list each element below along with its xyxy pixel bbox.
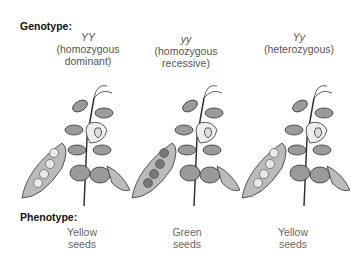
pea-plant-illustration-2	[122, 78, 240, 208]
genotype-description: recessive)	[131, 57, 241, 69]
genotype-description: (heterozygous)	[244, 43, 351, 55]
pea-plant-illustration-1	[12, 78, 130, 208]
genotype-description: (homozygous	[33, 43, 143, 55]
phenotype-label: seeds	[253, 238, 333, 250]
genotype-column-2: yy (homozygous recessive)	[131, 33, 241, 69]
phenotype-label: Yellow	[42, 226, 122, 238]
genotype-column-1: YY (homozygous dominant)	[33, 31, 143, 67]
phenotype-column-2: Green seeds	[147, 226, 227, 250]
phenotype-heading: Phenotype:	[20, 211, 77, 223]
phenotype-column-3: Yellow seeds	[253, 226, 333, 250]
phenotype-label: seeds	[42, 238, 122, 250]
pea-plant-illustration-3	[232, 78, 350, 208]
genotype-label: yy	[131, 33, 241, 45]
genotype-label: YY	[33, 31, 143, 43]
genotype-description: (homozygous	[131, 45, 241, 57]
phenotype-label: Green	[147, 226, 227, 238]
phenotype-label: Yellow	[253, 226, 333, 238]
phenotype-column-1: Yellow seeds	[42, 226, 122, 250]
genotype-column-3: Yy (heterozygous)	[244, 31, 351, 55]
phenotype-label: seeds	[147, 238, 227, 250]
genotype-description: dominant)	[33, 55, 143, 67]
genotype-label: Yy	[244, 31, 351, 43]
